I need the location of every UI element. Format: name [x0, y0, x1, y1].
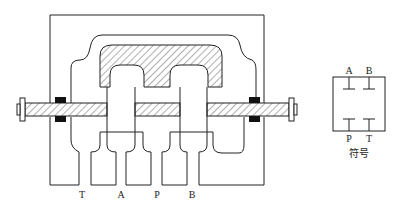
valve-body	[50, 15, 264, 185]
lower-ports	[91, 117, 264, 185]
port-label-B: B	[189, 189, 196, 200]
symbol-label-B: B	[366, 65, 373, 76]
valve-diagram: T A P B A B P T 符号	[0, 0, 396, 214]
seal-left-top	[55, 97, 66, 103]
symbol-box	[333, 77, 385, 131]
seal-left-bottom	[55, 116, 66, 122]
port-label-A: A	[117, 189, 125, 200]
right-end-cap	[289, 98, 294, 121]
port-labels: T A P B	[79, 189, 196, 200]
seal-right-bottom	[249, 116, 260, 122]
hatched-core	[100, 45, 222, 87]
symbol-label-A: A	[345, 65, 353, 76]
port-label-P: P	[154, 189, 160, 200]
symbol-label-T: T	[366, 133, 372, 144]
symbol-caption: 符号	[349, 147, 369, 159]
port-label-T: T	[79, 189, 85, 200]
symbol-label-P: P	[346, 133, 352, 144]
seal-right-top	[249, 97, 260, 103]
left-end-cap	[20, 98, 25, 121]
spool-shaft	[17, 87, 297, 132]
valve-symbol: A B P T 符号	[333, 65, 385, 159]
